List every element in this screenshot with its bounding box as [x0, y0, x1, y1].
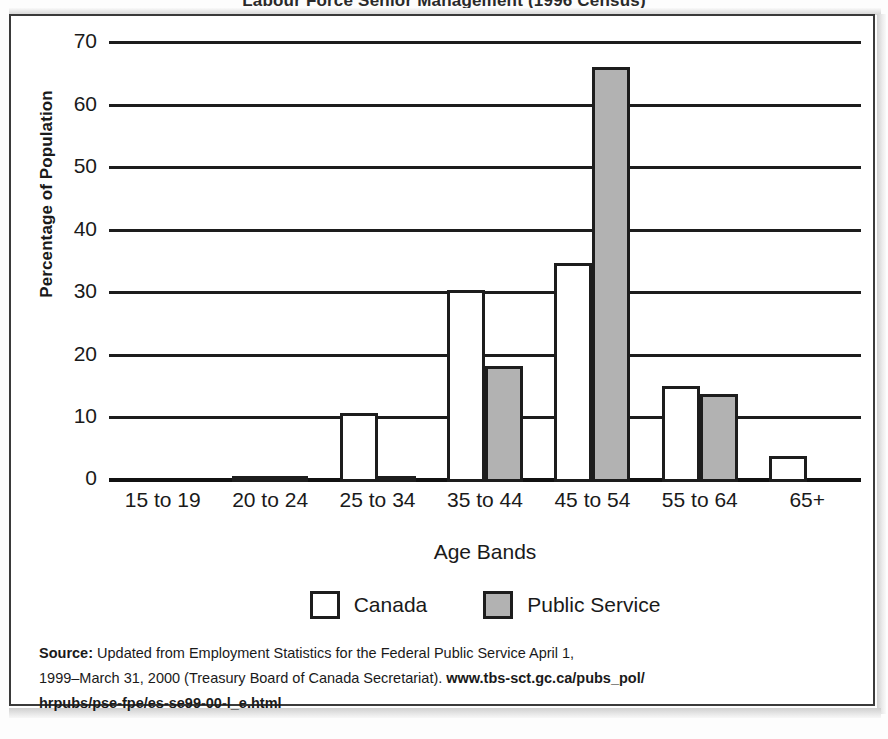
legend-swatch: [310, 591, 340, 619]
x-axis-label: Age Bands: [109, 540, 861, 564]
source-label: Source:: [39, 645, 93, 661]
legend-item[interactable]: Public Service: [483, 591, 660, 619]
bar-public-35-to-44: [485, 366, 523, 482]
bar-canada-25-to-34: [340, 413, 378, 482]
chart-page: Labour Force Senior Management (1996 Cen…: [0, 0, 888, 739]
plot-wrapper: Percentage of Population 010203040506070…: [11, 16, 873, 704]
y-tick-label-50: 50: [74, 154, 97, 178]
source-url-part-1[interactable]: www.tbs-sct.gc.ca/pubs_pol/: [446, 670, 644, 686]
x-tick-label: 20 to 24: [216, 488, 323, 512]
bar-group: [431, 44, 538, 482]
legend-item[interactable]: Canada: [310, 591, 428, 619]
bar-canada-45-to-54: [554, 263, 592, 482]
legend-label: Canada: [354, 593, 428, 617]
bar-public-45-to-54: [592, 67, 630, 482]
bar-group: [216, 44, 323, 482]
x-tick-label: 65+: [754, 488, 861, 512]
x-tick-label: 15 to 19: [109, 488, 216, 512]
y-tick-label-20: 20: [74, 342, 97, 366]
bar-group: [539, 44, 646, 482]
plot-area: 010203040506070: [109, 44, 861, 482]
source-url-part-2[interactable]: hrpubs/pse-fpe/es-se99-00-l_e.html: [39, 695, 282, 711]
x-tick-label: 35 to 44: [431, 488, 538, 512]
bar-groups: [109, 44, 861, 482]
source-line-2: 1999–March 31, 2000 (Treasury Board of C…: [39, 670, 446, 686]
bar-group: [646, 44, 753, 482]
x-tick-label: 25 to 34: [324, 488, 431, 512]
y-tick-label-40: 40: [74, 217, 97, 241]
bar-canada-55-to-64: [662, 386, 700, 482]
bar-group: [324, 44, 431, 482]
legend-swatch: [483, 591, 513, 619]
x-axis-tick-labels: 15 to 1920 to 2425 to 3435 to 4445 to 54…: [109, 488, 861, 512]
y-axis-label: Percentage of Population: [37, 74, 57, 314]
y-tick-label-60: 60: [74, 92, 97, 116]
y-tick-label-70: 70: [74, 29, 97, 53]
bar-canada-35-to-44: [447, 290, 485, 482]
bar-public-55-to-64: [700, 394, 738, 482]
source-line-1: Updated from Employment Statistics for t…: [93, 645, 574, 661]
bar-canada-20-to-24: [232, 476, 270, 482]
y-tick-label-10: 10: [74, 404, 97, 428]
x-tick-label: 55 to 64: [646, 488, 753, 512]
bar-public-20-to-24: [270, 476, 308, 482]
chart-legend: CanadaPublic Service: [109, 591, 861, 619]
bar-canada-65+: [769, 456, 807, 482]
bar-group: [109, 44, 216, 482]
y-tick-label-0: 0: [85, 466, 97, 490]
page-edge-right: [877, 14, 886, 714]
bar-public-25-to-34: [378, 476, 416, 482]
source-note: Source: Updated from Employment Statisti…: [39, 641, 859, 716]
y-tick-label-30: 30: [74, 279, 97, 303]
x-tick-label: 45 to 54: [539, 488, 646, 512]
legend-label: Public Service: [527, 593, 660, 617]
bar-group: [754, 44, 861, 482]
chart-frame: Percentage of Population 010203040506070…: [9, 14, 875, 706]
